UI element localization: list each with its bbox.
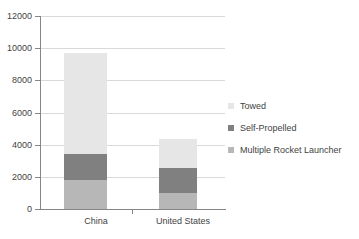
x-axis-line — [40, 209, 226, 210]
legend-label-self-propelled: Self-Propelled — [240, 123, 297, 133]
y-axis-tick-label-10000: 10000 — [0, 44, 32, 53]
x-axis-tick-label-united-states: United States — [138, 216, 228, 227]
y-axis-tick-label-6000: 6000 — [0, 109, 32, 118]
bar-segment-china-multiple-rocket-launcher[interactable] — [64, 180, 107, 209]
gridline-10000 — [40, 48, 225, 49]
bar-segment-china-self-propelled[interactable] — [64, 154, 107, 180]
bar-segment-united-states-self-propelled[interactable] — [159, 168, 197, 193]
bar-segment-united-states-multiple-rocket-launcher[interactable] — [159, 193, 197, 209]
bar-china[interactable] — [64, 53, 107, 209]
legend-swatch-multiple-rocket-launcher-icon — [228, 147, 234, 153]
chart-legend: Towed Self-Propelled Multiple Rocket Lau… — [228, 95, 359, 161]
y-axis-tick-label-2000: 2000 — [0, 173, 32, 182]
legend-swatch-self-propelled-icon — [228, 125, 234, 131]
stacked-bar-chart: 12000 10000 8000 6000 4000 2000 0 — [0, 0, 359, 239]
y-axis-tick-label-12000: 12000 — [0, 12, 32, 21]
x-axis-tick-mark-divider — [132, 209, 133, 214]
bar-segment-united-states-towed[interactable] — [159, 139, 197, 168]
legend-swatch-towed-icon — [228, 103, 234, 109]
gridline-12000 — [40, 16, 225, 17]
legend-item-self-propelled[interactable]: Self-Propelled — [228, 117, 359, 139]
legend-item-towed[interactable]: Towed — [228, 95, 359, 117]
legend-item-multiple-rocket-launcher[interactable]: Multiple Rocket Launcher — [228, 139, 359, 161]
legend-label-towed: Towed — [240, 101, 266, 111]
plot-area — [40, 16, 225, 209]
y-axis-tick-label-0: 0 — [0, 205, 32, 214]
x-axis-tick-label-china: China — [56, 216, 136, 227]
bar-segment-china-towed[interactable] — [64, 53, 107, 154]
bar-united-states[interactable] — [159, 139, 197, 209]
y-axis-tick-label-8000: 8000 — [0, 76, 32, 85]
y-axis-tick-label-4000: 4000 — [0, 141, 32, 150]
y-axis-line — [40, 16, 41, 209]
legend-label-multiple-rocket-launcher: Multiple Rocket Launcher — [240, 145, 342, 155]
